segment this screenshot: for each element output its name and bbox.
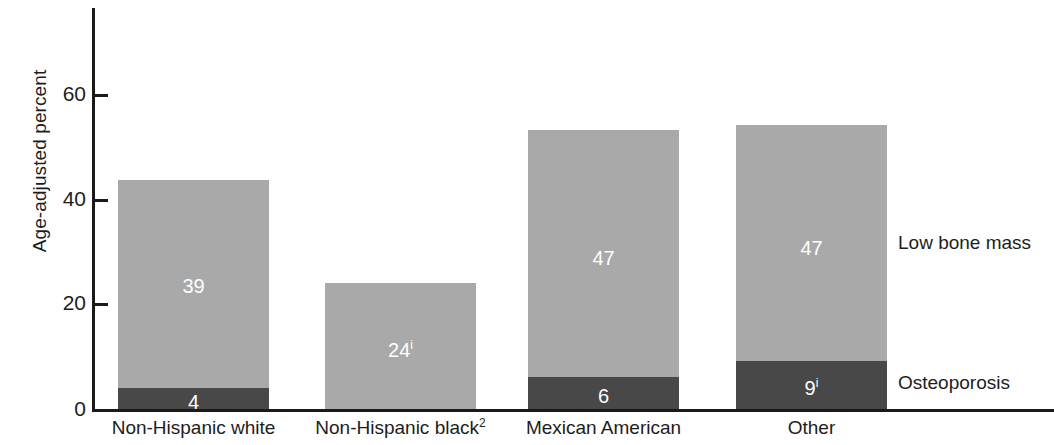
bar-value-label-low-bone-mass: 24i (325, 340, 476, 360)
bar-segment-low-bone-mass: 47 (736, 125, 887, 361)
legend-item-osteoporosis: Osteoporosis (898, 373, 1010, 392)
y-tick-label-20: 20 (40, 292, 86, 313)
x-axis-label-non-hispanic-white: Non-Hispanic white (103, 417, 284, 440)
bar-mexican-american: 47 6 (528, 130, 679, 409)
x-axis-label-non-hispanic-black: Non-Hispanic black2 (305, 417, 496, 440)
x-axis-label-mexican-american: Mexican American (513, 417, 694, 440)
bar-segment-osteoporosis: 4 (118, 388, 269, 409)
y-tick-label-0: 0 (40, 398, 86, 419)
y-axis-title: Age-adjusted percent (29, 31, 51, 291)
bar-value-label-low-bone-mass: 47 (528, 248, 679, 268)
x-axis-label-text: Other (788, 417, 836, 438)
x-axis-label-text: Non-Hispanic white (112, 417, 276, 438)
bar-segment-low-bone-mass: 24i (325, 283, 476, 409)
bar-value-label-low-bone-mass: 47 (736, 238, 887, 258)
bar-value-text: 4 (188, 391, 199, 413)
bar-value-text: 6 (598, 385, 609, 407)
bar-segment-osteoporosis: 6 (528, 377, 679, 409)
bar-non-hispanic-black: 24i (325, 283, 476, 409)
x-axis-label-text: Mexican American (526, 417, 681, 438)
bar-value-text: 47 (800, 237, 822, 259)
bar-value-label-osteoporosis: 4 (118, 392, 269, 412)
bar-other: 47 9i (736, 125, 887, 409)
bar-value-text: 9 (805, 377, 816, 399)
y-tick-label-40: 40 (40, 188, 86, 209)
y-axis-line (92, 8, 95, 412)
bar-value-label-osteoporosis: 9i (736, 378, 887, 398)
y-tick-mark-40 (95, 199, 108, 202)
bar-segment-osteoporosis: 9i (736, 361, 887, 409)
legend-item-low-bone-mass: Low bone mass (898, 233, 1031, 252)
bar-segment-low-bone-mass: 39 (118, 180, 269, 388)
bar-value-text: 47 (592, 247, 614, 269)
y-tick-label-60: 60 (40, 83, 86, 104)
x-axis-label-text: Non-Hispanic black (315, 417, 479, 438)
bar-value-text: 24 (388, 339, 410, 361)
bar-non-hispanic-white: 39 4 (118, 180, 269, 409)
bar-segment-low-bone-mass: 47 (528, 130, 679, 377)
y-tick-mark-60 (95, 94, 108, 97)
stacked-bar-chart: Age-adjusted percent 60 40 20 0 39 4 24i… (0, 0, 1054, 445)
bar-value-text: 39 (182, 275, 204, 297)
x-axis-label-other: Other (736, 417, 887, 440)
bar-value-label-low-bone-mass: 39 (118, 276, 269, 296)
bar-value-label-osteoporosis: 6 (528, 386, 679, 406)
bar-value-superscript: i (816, 376, 819, 390)
x-axis-label-superscript: 2 (479, 416, 486, 430)
y-tick-mark-20 (95, 303, 108, 306)
bar-value-superscript: i (410, 338, 413, 352)
